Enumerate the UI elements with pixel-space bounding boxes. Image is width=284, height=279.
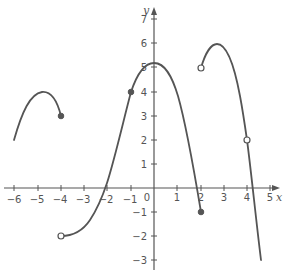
curve-segment-3 (201, 44, 261, 260)
x-axis-label: x (276, 191, 283, 204)
y-tick-label: −2 (132, 231, 147, 242)
y-tick-label: 3 (141, 111, 147, 122)
x-tick-label: 1 (174, 192, 180, 203)
closed-point-neg4-3 (58, 113, 64, 119)
y-axis-arrow-icon (151, 7, 157, 15)
closed-point-neg1-4 (128, 89, 134, 95)
x-tick-label: 4 (244, 192, 250, 203)
y-tick-label: 1 (141, 159, 147, 170)
x-tick-labels: −6 −5 −4 −3 −2 −1 0 1 2 3 4 5 (7, 192, 274, 205)
x-tick-label: 5 (267, 192, 273, 203)
y-tick-label: −3 (132, 255, 147, 266)
piecewise-function-graph: x y −6 −5 −4 −3 −2 −1 0 1 2 3 4 5 (0, 0, 284, 279)
x-tick-label: −5 (30, 194, 45, 205)
closed-point-2-neg1 (198, 209, 204, 215)
origin-label: 0 (144, 192, 150, 203)
x-tick-label: −3 (76, 194, 91, 205)
x-tick-label: −1 (123, 194, 138, 205)
open-point-2-5 (198, 65, 204, 71)
open-point-neg4-neg2 (58, 233, 64, 239)
y-tick-labels: 7 6 5 4 3 2 1 −1 −2 −3 (132, 14, 147, 266)
y-tick-label: 2 (141, 135, 147, 146)
y-tick-label: 6 (141, 38, 147, 49)
y-tick-label: 7 (141, 14, 147, 25)
x-tick-label: 3 (221, 192, 227, 203)
open-point-4-2 (244, 137, 250, 143)
x-tick-label: −6 (7, 194, 22, 205)
x-tick-label: −4 (53, 194, 68, 205)
y-tick-label: 4 (141, 87, 147, 98)
curve-segment-1 (14, 92, 61, 140)
y-tick-label: −1 (132, 207, 147, 218)
